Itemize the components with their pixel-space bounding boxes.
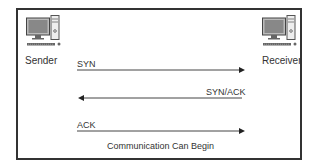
sender-label: Sender xyxy=(25,55,57,66)
receiver-computer-icon xyxy=(262,15,300,49)
syn-ack-arrow xyxy=(76,94,246,102)
ack-arrow xyxy=(77,127,247,135)
communication-begins-label: Communication Can Begin xyxy=(107,141,214,151)
receiver-label: Receiver xyxy=(262,55,301,66)
syn-arrow xyxy=(77,66,247,74)
sender-computer-icon xyxy=(26,15,64,49)
